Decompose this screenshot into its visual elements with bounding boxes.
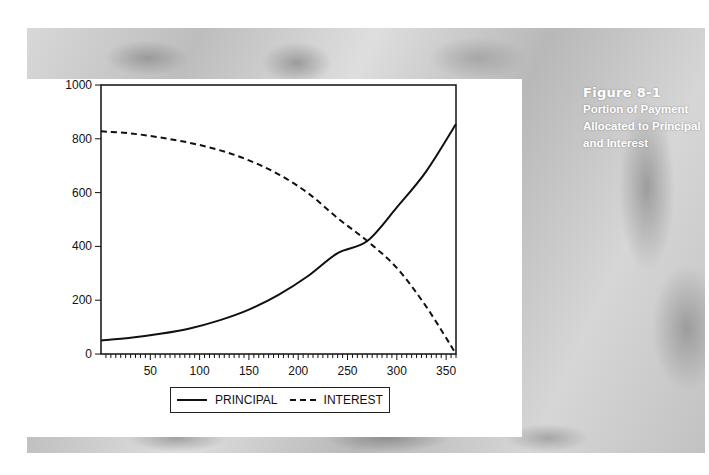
y-tick-label: 200 (72, 293, 92, 307)
series-line-interest (101, 131, 456, 354)
x-tick-label: 150 (239, 364, 259, 378)
chart-lines (101, 124, 456, 354)
legend-label-principal: PRINCIPAL (215, 393, 277, 407)
y-tick-label: 400 (72, 239, 92, 253)
x-tick-label: 300 (387, 364, 407, 378)
x-tick-label: 200 (288, 364, 308, 378)
series-line-principal (101, 124, 456, 341)
x-tick-label: 350 (436, 364, 456, 378)
dashed-line-icon (290, 399, 316, 401)
y-tick-label: 0 (85, 347, 92, 361)
y-tick-label: 800 (72, 132, 92, 146)
x-tick-label: 50 (144, 364, 158, 378)
chart-legend: PRINCIPAL INTEREST (170, 387, 390, 413)
y-tick-label: 1000 (65, 78, 92, 92)
legend-label-interest: INTEREST (324, 393, 383, 407)
legend-item-principal: PRINCIPAL (177, 393, 277, 407)
solid-line-icon (177, 399, 207, 401)
legend-item-interest: INTEREST (290, 393, 383, 407)
plot-frame (101, 85, 456, 354)
y-tick-label: 600 (72, 186, 92, 200)
x-tick-label: 100 (190, 364, 210, 378)
chart-axes: 0200400600800100050100150200250300350 (65, 78, 456, 378)
x-tick-label: 250 (338, 364, 358, 378)
